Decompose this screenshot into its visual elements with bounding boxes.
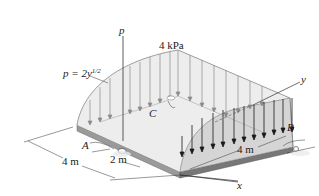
dim-a-offset-label: 2 m bbox=[110, 154, 127, 165]
point-c-label: C bbox=[149, 108, 156, 119]
diagram-svg bbox=[0, 0, 319, 196]
point-c-marker bbox=[167, 96, 175, 100]
peak-load-label: 4 kPa bbox=[159, 40, 184, 51]
dim-length-right-label: 4 m bbox=[237, 144, 254, 155]
point-a-label: A bbox=[82, 140, 89, 151]
figure: p p = 2y1/2 4 kPa y x A B C 4 m 2 m 4 m bbox=[0, 0, 319, 196]
x-axis-label: x bbox=[237, 180, 242, 191]
point-b-label: B bbox=[287, 122, 294, 133]
y-axis-label: y bbox=[301, 74, 306, 85]
p-axis-label: p bbox=[119, 25, 125, 36]
dim-width-left-label: 4 m bbox=[62, 156, 79, 167]
load-equation-label: p = 2y1/2 bbox=[63, 68, 101, 79]
